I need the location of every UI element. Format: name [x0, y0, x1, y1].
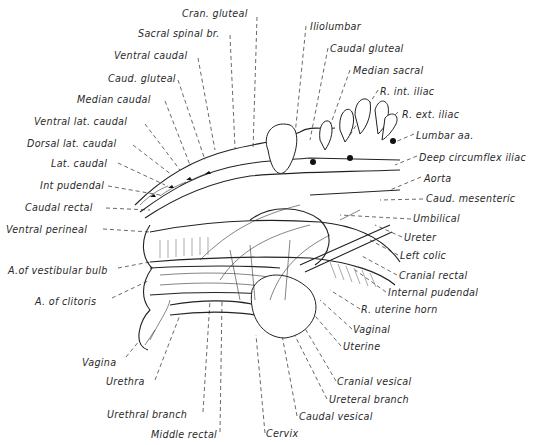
label-lat-caudal: Lat. caudal: [51, 158, 107, 169]
label-r-ext-iliac: R. ext. iliac: [402, 109, 459, 120]
label-caudal-vesical: Caudal vesical: [299, 411, 373, 422]
label-deep-circumflex-iliac: Deep circumflex iliac: [419, 152, 526, 163]
label-urethral-branch: Urethral branch: [107, 409, 187, 420]
label-r-int-iliac: R. int. iliac: [380, 86, 434, 97]
label-cranial-rectal: Cranial rectal: [399, 270, 468, 281]
label-ventral-caudal: Ventral caudal: [114, 50, 187, 61]
label-caudal-rectal: Caudal rectal: [25, 202, 93, 213]
label-urethra: Urethra: [106, 376, 145, 387]
label-umbilical: Umbilical: [413, 213, 460, 224]
label-median-caudal: Median caudal: [77, 94, 151, 105]
label-a-of-vestibular-bulb: A.of vestibular bulb: [8, 265, 108, 276]
label-iliolumbar: Iliolumbar: [310, 21, 361, 32]
label-int-pudendal: Int pudendal: [40, 180, 104, 191]
label-lumbar-aa: Lumbar aa.: [416, 130, 474, 141]
label-uterine: Uterine: [343, 341, 380, 352]
label-aorta: Aorta: [424, 173, 452, 184]
label-internal-pudendal: Internal pudendal: [388, 287, 478, 298]
label-vagina: Vagina: [82, 357, 116, 368]
label-cran-gluteal: Cran. gluteal: [182, 8, 248, 19]
label-caud-gluteal: Caud. gluteal: [108, 73, 176, 84]
label-ventral-perineal: Ventral perineal: [6, 224, 87, 235]
label-vaginal: Vaginal: [353, 324, 390, 335]
label-ureter: Ureter: [404, 232, 436, 243]
label-middle-rectal: Middle rectal: [151, 429, 217, 440]
label-caud-mesenteric: Caud. mesenteric: [426, 193, 515, 204]
label-cervix: Cervix: [266, 428, 298, 439]
label-ureteral-branch: Ureteral branch: [329, 394, 409, 405]
label-left-colic: Left colic: [400, 250, 446, 261]
label-median-sacral: Median sacral: [353, 65, 424, 76]
label-dorsal-lat-caudal: Dorsal lat. caudal: [27, 138, 116, 149]
label-cranial-vesical: Cranial vesical: [337, 376, 411, 387]
label-r-uterine-horn: R. uterine horn: [361, 304, 438, 315]
anatomical-illustration: [0, 0, 543, 445]
label-sacral-spinal-br: Sacral spinal br.: [138, 28, 220, 39]
label-a-of-clitoris: A. of clitoris: [35, 296, 96, 307]
label-ventral-lat-caudal: Ventral lat. caudal: [34, 116, 127, 127]
label-caudal-gluteal: Caudal gluteal: [330, 43, 404, 54]
